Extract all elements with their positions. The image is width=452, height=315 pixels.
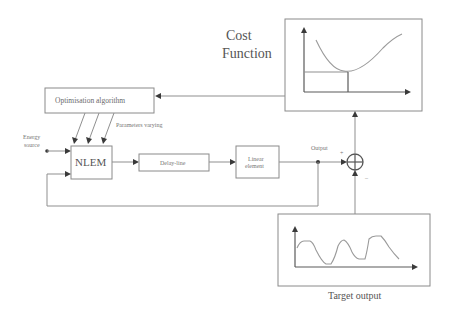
energy-source-label-2: source [24,142,40,148]
param-arrow-2-head-icon [86,137,92,144]
cost-function-title-2: Function [222,46,272,61]
energy-source-label-1: Energy [23,134,40,140]
nlem-label: NLEM [75,156,106,168]
sum-to-cost-arrow-icon [352,111,358,117]
linear-element-label-2: element [245,163,264,169]
energy-arrow-icon [65,148,71,154]
optimisation-algorithm-label: Optimisation algorithm [55,96,125,105]
minus-sign-label: – [364,175,369,181]
output-to-sum-arrow-icon [341,159,347,165]
param-arrow-2 [89,113,99,140]
linear-element-box [236,146,279,178]
feedback-arrow-icon [65,171,71,177]
param-arrow-3 [104,113,114,140]
delay-line-label: Delay-line [160,160,186,166]
nlem-to-delay-arrow-icon [133,159,139,165]
plus-sign-label: + [340,150,344,156]
target-to-sum-arrow-icon [352,170,358,176]
summing-junction [347,154,363,170]
param-arrow-1 [75,113,85,140]
delay-to-linear-arrow-icon [230,159,236,165]
target-output-label: Target output [328,290,381,301]
cost-to-optimisation-arrow-icon [155,93,161,99]
output-label: Output [311,145,328,151]
target-output-box [278,214,430,286]
cost-function-title-1: Cost [226,28,252,43]
param-arrow-3-head-icon [101,137,107,144]
linear-element-label-1: Linear [248,156,264,162]
param-arrow-1-head-icon [72,137,78,144]
parameters-varying-label: Parameters varying [116,122,162,128]
block-diagram: Cost Function Optimisation algorithm Par… [0,0,452,315]
